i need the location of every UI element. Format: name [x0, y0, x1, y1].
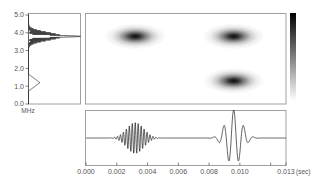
- colorbar: [290, 13, 296, 101]
- spectrum-y-tick-label: 2.0: [14, 65, 24, 72]
- spectrum-y-tick-label: 1.0: [14, 83, 24, 90]
- waveform-x-tick-label: 0.002: [108, 168, 126, 175]
- waveform-x-tick-label: 0.010: [231, 168, 249, 175]
- waveform-unit-label: (sec): [296, 168, 310, 176]
- spectrum-frame: [29, 14, 81, 105]
- waveform-x-tick-label: 0.004: [139, 168, 157, 175]
- waveform-x-tick-label: 0.006: [170, 168, 188, 175]
- spectrum-panel: 0.01.02.03.04.05.0 MHz: [14, 11, 80, 114]
- spectrum-y-ticks: 0.01.02.03.04.05.0: [14, 11, 28, 107]
- spectrum-y-tick-label: 4.0: [14, 29, 24, 36]
- spectrogram-blob: [203, 23, 265, 49]
- waveform-panel: 0.0000.0020.0040.0060.0080.0100.013 (sec…: [77, 110, 310, 176]
- spectrum-unit-label: MHz: [21, 107, 34, 114]
- spectrum-y-tick-label: 5.0: [14, 11, 24, 18]
- spectrum-y-tick-label: 3.0: [14, 47, 24, 54]
- waveform-x-tick-label: 0.013: [277, 168, 295, 175]
- waveform-x-tick-label: 0.008: [200, 168, 218, 175]
- spectrogram-panel: [86, 14, 287, 105]
- chart-figure: 0.01.02.03.04.05.0 MHz 0.0000.0020.0040.…: [0, 0, 321, 185]
- spectrogram-blob: [203, 68, 265, 94]
- spectrogram-blob: [104, 23, 166, 49]
- waveform-x-tick-label: 0.000: [77, 168, 95, 175]
